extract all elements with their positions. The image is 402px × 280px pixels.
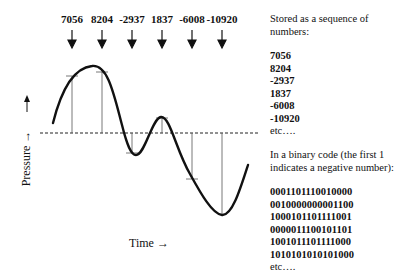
decimal-value: 8204 [270,63,402,76]
down-arrow-icons [68,30,226,48]
binary-panel: In a binary code (the first 1 indicates … [270,149,402,274]
binary-value: 1001011101111000 [270,236,402,249]
binary-value: 0001101110010000 [270,186,402,199]
decimal-value: -6008 [270,100,402,113]
binary-heading: In a binary code (the first 1 indicates … [270,149,402,174]
decimal-list: 7056 8204 -2937 1837 -6008 -10920 etc…. [270,50,402,138]
pressure-arrow-icon [24,95,30,102]
decimal-heading: Stored as a sequence of numbers: [270,13,402,38]
waveform-diagram: 7056 8204 -2937 1837 -6008 -10920 Pressu… [0,0,260,280]
sample-label: -6008 [179,13,205,25]
binary-value: 1010101010101000 [270,249,402,262]
sample-label: -10920 [206,13,237,25]
sample-label: -2937 [119,13,145,25]
binary-value: 1000101101111001 [270,211,402,224]
x-axis-label: Time → [129,236,169,251]
decimal-value: 7056 [270,50,402,63]
decimal-value: -10920 [270,113,402,126]
y-axis-label: Pressure → [19,119,34,199]
decimal-panel: Stored as a sequence of numbers: 7056 82… [270,13,402,138]
decimal-etc: etc…. [270,125,402,138]
sample-label: 1837 [151,13,173,25]
binary-value: 0000011100101101 [270,224,402,237]
pressure-waveform [53,66,248,215]
decimal-value: -2937 [270,75,402,88]
sample-label: 8204 [91,13,113,25]
binary-value: 0010000000001100 [270,199,402,212]
binary-etc: etc…. [270,261,402,274]
decimal-value: 1837 [270,88,402,101]
binary-list: 0001101110010000 0010000000001100 100010… [270,186,402,274]
sample-label: 7056 [61,13,83,25]
